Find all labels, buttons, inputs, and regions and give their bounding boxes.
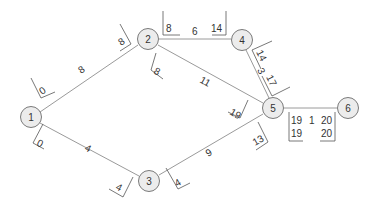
node-3-label: 3 bbox=[146, 176, 152, 187]
node-5: 5 bbox=[263, 98, 284, 119]
e45-start-time: 14 bbox=[254, 48, 269, 63]
e12-end-time: 8 bbox=[116, 35, 127, 47]
node-6: 6 bbox=[338, 98, 359, 119]
node-2-label: 2 bbox=[145, 34, 151, 45]
node-1-label: 1 bbox=[28, 112, 34, 123]
e56-late-finish: 20 bbox=[321, 128, 333, 139]
edge-1-2 bbox=[40, 45, 138, 112]
e24-end-time: 14 bbox=[211, 23, 223, 34]
e56-late-start: 19 bbox=[291, 128, 303, 139]
edge-3-5 bbox=[159, 114, 263, 175]
e13-end-time: 4 bbox=[114, 181, 124, 194]
edge-2-5-duration: 11 bbox=[198, 74, 213, 89]
e45-end-time: 17 bbox=[264, 73, 279, 88]
edge-2-4-duration: 6 bbox=[192, 26, 198, 37]
e12-start-time: 0 bbox=[37, 84, 48, 96]
e24-start-time: 8 bbox=[166, 23, 172, 34]
edge-1-3-duration: 4 bbox=[83, 142, 93, 155]
edge-1-2-duration: 8 bbox=[76, 63, 87, 75]
node-4-label: 4 bbox=[239, 35, 245, 46]
edge-4-5-duration: 3 bbox=[255, 66, 268, 76]
e13-start-time: 0 bbox=[35, 137, 45, 150]
node-5-label: 5 bbox=[270, 103, 276, 114]
edge-5-6-duration: 1 bbox=[309, 115, 315, 126]
node-3: 3 bbox=[139, 171, 160, 192]
e25-end-time: 19 bbox=[228, 106, 243, 121]
network-diagram: 8 4 6 11 9 3 1 0 8 0 4 8 14 8 19 4 13 14… bbox=[0, 0, 379, 207]
node-2: 2 bbox=[138, 29, 159, 50]
edge-3-5-duration: 9 bbox=[204, 146, 215, 159]
e25-start-time: 8 bbox=[152, 65, 163, 78]
node-4: 4 bbox=[232, 30, 253, 51]
node-6-label: 6 bbox=[345, 103, 351, 114]
e56-early-start: 19 bbox=[291, 115, 303, 126]
node-1: 1 bbox=[21, 107, 42, 128]
e56-early-finish: 20 bbox=[321, 115, 333, 126]
e35-end-time: 13 bbox=[251, 132, 267, 147]
